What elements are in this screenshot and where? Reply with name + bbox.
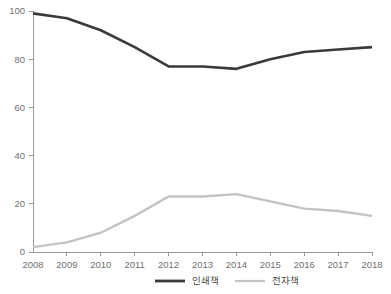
y-tick-label: 0 [20, 246, 25, 257]
x-axis: 2008200920102011201220132014201520162017… [22, 252, 382, 270]
y-axis: 020406080100 [9, 5, 33, 257]
x-tick-label: 2015 [260, 259, 281, 270]
x-tick-label: 2011 [124, 259, 144, 270]
y-tick-label: 20 [14, 198, 25, 209]
series-line-ebook [33, 194, 372, 247]
legend-label-ebook: 전자책 [272, 275, 299, 286]
x-tick-label: 2009 [56, 259, 77, 270]
x-tick-label: 2014 [226, 259, 247, 270]
x-tick-label: 2017 [328, 259, 349, 270]
x-tick-label: 2012 [158, 259, 179, 270]
y-tick-label: 60 [14, 102, 25, 113]
x-tick-label: 2010 [90, 259, 111, 270]
legend-label-print: 인쇄책 [192, 275, 219, 286]
x-tick-label: 2016 [294, 259, 315, 270]
series-line-print [33, 13, 372, 68]
line-chart: 020406080100 200820092010201120122013201… [0, 0, 391, 294]
x-tick-label: 2018 [361, 259, 382, 270]
y-tick-label: 100 [9, 5, 25, 16]
y-tick-label: 80 [14, 54, 25, 65]
y-tick-label: 40 [14, 150, 25, 161]
x-tick-label: 2008 [22, 259, 43, 270]
x-tick-label: 2013 [192, 259, 213, 270]
chart-legend: 인쇄책전자책 [155, 275, 299, 286]
series-lines [33, 13, 372, 247]
chart-canvas: 020406080100 200820092010201120122013201… [0, 0, 391, 294]
